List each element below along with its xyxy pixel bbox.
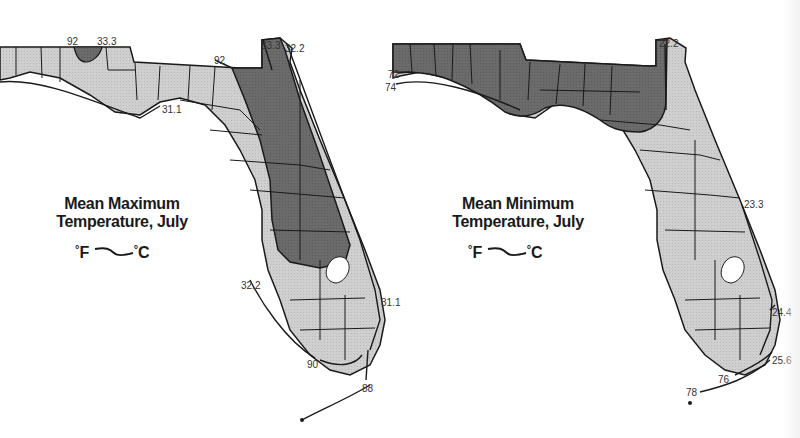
isotherm-label: 72 <box>388 69 399 80</box>
isotherm-label: 74 <box>385 82 396 93</box>
isotherm-label: 23.3 <box>744 199 763 210</box>
legend-min: °F °C <box>468 243 543 262</box>
celsius-label: C <box>531 244 543 261</box>
page-edge-shadow <box>782 0 800 438</box>
isotherm-label: 78 <box>686 387 697 398</box>
legend-line-icon <box>487 245 527 259</box>
title-line-1: Mean Maximum <box>42 195 202 213</box>
fahrenheit-label: F <box>79 244 89 261</box>
title-line-1: Mean Minimum <box>448 195 588 213</box>
isotherm-label: 92 <box>67 36 78 47</box>
isotherm-label: 22.2 <box>659 38 678 49</box>
isotherm-label: 76 <box>718 374 729 385</box>
isotherm-label: 31.1 <box>162 104 181 115</box>
isotherm-label: 33.3 <box>97 36 116 47</box>
isotherm-label: 32.2 <box>285 43 304 54</box>
map-title-max: Mean Maximum Temperature, July <box>42 195 202 231</box>
isotherm-label: 32.2 <box>241 280 260 291</box>
map-mean-minimum: Mean Minimum Temperature, July °F °C <box>380 0 800 438</box>
isotherm-label: 88 <box>362 383 373 394</box>
title-line-2: Temperature, July <box>42 213 202 231</box>
legend-line-icon <box>94 245 134 259</box>
isotherm-label: 33.3 <box>261 40 280 51</box>
cool-zone-north <box>393 40 667 132</box>
fahrenheit-label: F <box>472 244 482 261</box>
florida-map-min <box>380 0 800 438</box>
isotherm-label: 92 <box>214 55 225 66</box>
legend-max: °F °C <box>75 243 150 262</box>
celsius-label: C <box>138 244 150 261</box>
map-mean-maximum: Mean Maximum Temperature, July °F °C <box>0 0 390 438</box>
title-line-2: Temperature, July <box>448 213 588 231</box>
isotherm-label: 90 <box>307 359 318 370</box>
map-title-min: Mean Minimum Temperature, July <box>448 195 588 231</box>
isotherm-label: 31.1 <box>381 297 400 308</box>
